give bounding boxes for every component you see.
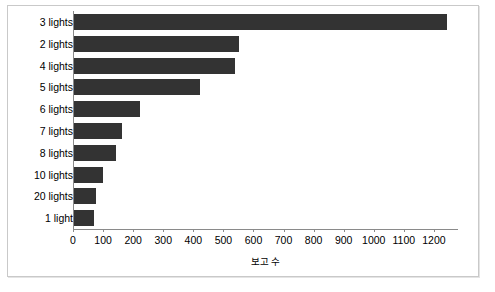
bar-fill [74,14,447,30]
x-tick-label: 300 [154,234,172,246]
x-tick-mark [193,229,194,232]
category-label: 1 light [11,212,73,224]
x-axis-title: 보고 수 [73,254,458,268]
bar-fill [74,101,140,117]
x-tick-label: 900 [335,234,353,246]
x-axis-line [73,229,458,230]
x-tick-label: 200 [124,234,142,246]
bar-fill [74,145,116,161]
chart-figure: 3 lights2 lights4 lights5 lights6 lights… [0,0,495,292]
bar-fill [74,210,94,226]
x-tick-mark [253,229,254,232]
x-tick-mark [103,229,104,232]
bar [74,145,116,161]
category-axis-labels: 3 lights2 lights4 lights5 lights6 lights… [10,11,73,229]
x-tick-label: 0 [70,234,76,246]
x-tick-mark [284,229,285,232]
bar [74,79,200,95]
category-label: 8 lights [11,147,73,159]
bar [74,14,447,30]
bar-fill [74,123,122,139]
x-tick-label: 500 [215,234,233,246]
bar [74,36,239,52]
bar-fill [74,167,103,183]
x-tick-mark [223,229,224,232]
bar [74,58,235,74]
x-tick-mark [404,229,405,232]
x-tick-mark [163,229,164,232]
x-tick-mark [374,229,375,232]
x-tick-label: 1200 [422,234,445,246]
bar [74,188,96,204]
x-tick-mark [73,229,74,232]
x-tick-label: 1000 [362,234,385,246]
x-tick-label: 800 [305,234,323,246]
category-label: 20 lights [11,190,73,202]
x-tick-label: 600 [245,234,263,246]
category-label: 3 lights [11,16,73,28]
bar [74,210,94,226]
category-label: 5 lights [11,81,73,93]
x-tick-mark [344,229,345,232]
x-tick-mark [133,229,134,232]
x-tick-label: 100 [94,234,112,246]
category-label: 4 lights [11,60,73,72]
category-label: 6 lights [11,103,73,115]
x-tick-mark [314,229,315,232]
bar-fill [74,188,96,204]
x-tick-mark [434,229,435,232]
plot-wrapper: 3 lights2 lights4 lights5 lights6 lights… [8,6,478,276]
bar-fill [74,58,235,74]
bar-fill [74,36,239,52]
x-tick-label: 700 [275,234,293,246]
x-tick-label: 1100 [393,234,416,246]
bar [74,167,103,183]
plot-area [73,11,458,229]
category-label: 7 lights [11,125,73,137]
bar-fill [74,79,200,95]
x-tick-label: 400 [185,234,203,246]
bar [74,101,140,117]
chart-frame: 3 lights2 lights4 lights5 lights6 lights… [7,5,479,277]
category-label: 10 lights [11,169,73,181]
category-label: 2 lights [11,38,73,50]
bar [74,123,122,139]
